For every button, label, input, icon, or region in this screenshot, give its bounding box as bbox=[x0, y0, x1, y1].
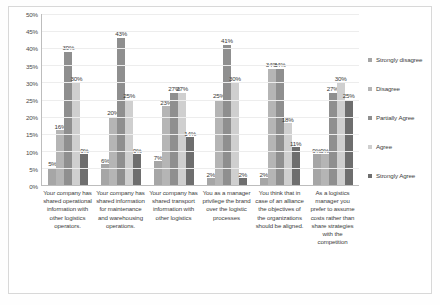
bar[interactable]: 11% bbox=[292, 147, 300, 185]
x-axis-category-label: You as a manager privilege the brand ove… bbox=[200, 189, 253, 246]
legend-item[interactable]: Disagree bbox=[368, 85, 432, 93]
y-axis-tick-label: 50% bbox=[26, 11, 38, 18]
x-axis-category-label: As a logistics manager you prefer to ass… bbox=[306, 189, 359, 246]
legend-item[interactable]: Partially Agree bbox=[368, 114, 432, 122]
bar[interactable]: 9% bbox=[133, 154, 141, 185]
x-axis-category-label: You think that in case of an alliance th… bbox=[253, 189, 306, 246]
x-axis-category-label: Your company has shared information for … bbox=[94, 189, 147, 246]
bar[interactable]: 9% bbox=[321, 154, 329, 185]
bar-value-label: 5% bbox=[48, 160, 57, 167]
x-axis-category-label: Your company has shared operational info… bbox=[41, 189, 94, 246]
bar-value-label: 30% bbox=[71, 75, 83, 82]
legend-label: Agree bbox=[376, 143, 392, 151]
x-axis-category-label: Your company has shared transport inform… bbox=[147, 189, 200, 246]
legend-item[interactable]: Agree bbox=[368, 143, 432, 151]
bar[interactable]: 2% bbox=[260, 178, 268, 185]
bar[interactable]: 27% bbox=[178, 93, 186, 185]
bar-value-label: 7% bbox=[154, 154, 163, 161]
bar[interactable]: 25% bbox=[345, 100, 353, 186]
y-axis-tick-label: 40% bbox=[26, 45, 38, 52]
bar[interactable]: 43% bbox=[117, 38, 125, 185]
gridline bbox=[42, 65, 359, 66]
legend-label: Disagree bbox=[376, 85, 400, 93]
y-axis-tick-label: 35% bbox=[26, 62, 38, 69]
legend-label: Strongly disagree bbox=[376, 56, 422, 64]
plot-area: 5%16%39%30%9%6%20%43%25%9%7%23%27%27%14%… bbox=[41, 14, 359, 186]
bar[interactable]: 5% bbox=[48, 168, 56, 185]
bar[interactable]: 25% bbox=[125, 100, 133, 186]
y-axis-tick-label: 20% bbox=[26, 114, 38, 121]
legend-label: Strongly Agree bbox=[376, 172, 415, 180]
bar-value-label: 41% bbox=[221, 37, 233, 44]
gridline bbox=[42, 100, 359, 101]
bar[interactable]: 25% bbox=[215, 100, 223, 186]
gridline bbox=[42, 14, 359, 15]
bar[interactable]: 23% bbox=[162, 106, 170, 185]
bar[interactable]: 2% bbox=[207, 178, 215, 185]
y-axis-tick-label: 10% bbox=[26, 148, 38, 155]
y-axis-tick-label: 5% bbox=[29, 165, 38, 172]
bar[interactable]: 9% bbox=[313, 154, 321, 185]
legend-swatch-icon bbox=[368, 174, 372, 178]
legend-swatch-icon bbox=[368, 116, 372, 120]
bar[interactable]: 2% bbox=[239, 178, 247, 185]
chart-container: 50%45%40%35%30%25%20%15%10%5%0% 5%16%39%… bbox=[0, 0, 440, 305]
legend-swatch-icon bbox=[368, 87, 372, 91]
y-axis-tick-label: 0% bbox=[29, 183, 38, 190]
bar[interactable]: 14% bbox=[186, 137, 194, 185]
gridline bbox=[42, 82, 359, 83]
chart-legend: Strongly disagreeDisagreePartially Agree… bbox=[368, 56, 432, 201]
y-axis-tick-label: 25% bbox=[26, 97, 38, 104]
gridline bbox=[42, 31, 359, 32]
gridline bbox=[42, 117, 359, 118]
legend-item[interactable]: Strongly Agree bbox=[368, 172, 432, 180]
plot-wrapper: 50%45%40%35%30%25%20%15%10%5%0% 5%16%39%… bbox=[14, 14, 362, 290]
x-axis-category-labels: Your company has shared operational info… bbox=[41, 189, 359, 246]
bar-value-label: 27% bbox=[176, 85, 188, 92]
bar-value-label: 11% bbox=[290, 140, 301, 147]
legend-swatch-icon bbox=[368, 58, 372, 62]
bar-value-label: 30% bbox=[335, 75, 347, 82]
bar[interactable]: 7% bbox=[154, 161, 162, 185]
bar[interactable]: 18% bbox=[284, 123, 292, 185]
y-axis: 50%45%40%35%30%25%20%15%10%5%0% bbox=[14, 14, 40, 186]
y-axis-tick-label: 15% bbox=[26, 131, 38, 138]
y-axis-tick-label: 30% bbox=[26, 79, 38, 86]
gridline bbox=[42, 151, 359, 152]
legend-swatch-icon bbox=[368, 145, 372, 149]
bar-value-label: 25% bbox=[123, 92, 135, 99]
bar[interactable]: 9% bbox=[80, 154, 88, 185]
bar-value-label: 2% bbox=[239, 171, 248, 178]
legend-item[interactable]: Strongly disagree bbox=[368, 56, 432, 64]
bar-value-label: 2% bbox=[259, 171, 268, 178]
gridline bbox=[42, 168, 359, 169]
legend-label: Partially Agree bbox=[376, 114, 414, 122]
bar[interactable]: 27% bbox=[170, 93, 178, 185]
bar[interactable]: 16% bbox=[56, 130, 64, 185]
gridline bbox=[42, 48, 359, 49]
gridline bbox=[42, 134, 359, 135]
bar-value-label: 2% bbox=[207, 171, 216, 178]
bar-value-label: 25% bbox=[343, 92, 355, 99]
bar-value-label: 6% bbox=[101, 157, 110, 164]
bar[interactable]: 27% bbox=[329, 93, 337, 185]
bar-value-label: 30% bbox=[229, 75, 241, 82]
y-axis-tick-label: 45% bbox=[26, 28, 38, 35]
bar[interactable]: 39% bbox=[64, 52, 72, 185]
